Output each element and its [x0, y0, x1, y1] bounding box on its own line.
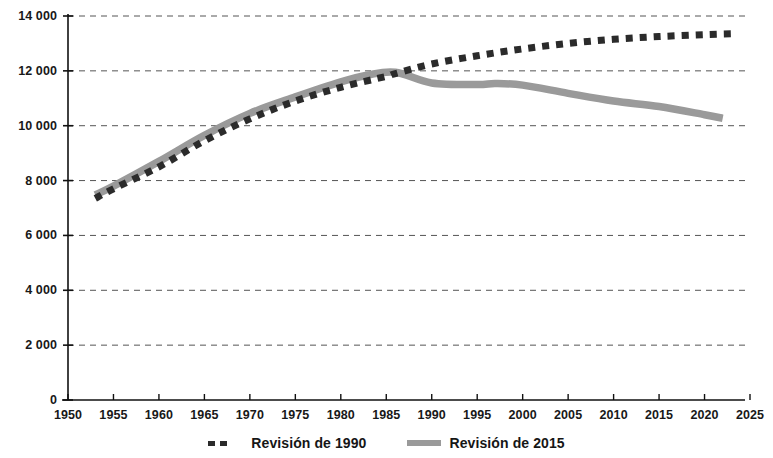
x-axis-label-2025: 2025: [736, 408, 764, 422]
x-axis-label-1975: 1975: [281, 408, 309, 422]
y-axis-label-10000: 10 000: [18, 119, 57, 133]
x-axis-label-2015: 2015: [645, 408, 673, 422]
y-axis-label-4000: 4 000: [25, 283, 57, 297]
x-axis-label-2005: 2005: [554, 408, 582, 422]
x-tick-marks-group: [68, 394, 750, 400]
x-axis-label-2010: 2010: [599, 408, 627, 422]
y-axis-label-14000: 14 000: [18, 9, 57, 23]
chart-legend: Revisión de 1990 Revisión de 2015: [0, 428, 773, 458]
legend-item-revision-1990[interactable]: Revisión de 1990: [208, 435, 366, 451]
series-line-revision-2015: [95, 72, 722, 195]
y-axis-label-2000: 2 000: [25, 338, 57, 352]
y-axis-label-6000: 6 000: [25, 228, 57, 242]
x-axis-label-2000: 2000: [509, 408, 537, 422]
dashed-line-marker-icon: [208, 440, 242, 447]
y-axis-label-8000: 8 000: [25, 174, 57, 188]
y-axis-label-0: 0: [50, 393, 57, 407]
x-axis-label-1960: 1960: [145, 408, 173, 422]
series-line-revision-1990: [95, 34, 732, 199]
legend-label-revision-2015: Revisión de 2015: [450, 435, 565, 451]
solid-line-marker-icon: [407, 439, 441, 447]
legend-label-revision-1990: Revisión de 1990: [251, 435, 366, 451]
gridlines-group: [68, 16, 750, 345]
x-axis-label-1970: 1970: [236, 408, 264, 422]
x-axis-label-1995: 1995: [463, 408, 491, 422]
x-axis-label-1990: 1990: [418, 408, 446, 422]
chart-plot-area: [0, 0, 773, 458]
x-axis-label-1955: 1955: [99, 408, 127, 422]
x-axis-label-1965: 1965: [190, 408, 218, 422]
y-axis-label-12000: 12 000: [18, 64, 57, 78]
chart-container: 02 0004 0006 0008 00010 00012 00014 000 …: [0, 0, 773, 458]
legend-item-revision-2015[interactable]: Revisión de 2015: [407, 435, 565, 451]
x-axis-label-2020: 2020: [690, 408, 718, 422]
x-axis-label-1980: 1980: [327, 408, 355, 422]
x-axis-label-1985: 1985: [372, 408, 400, 422]
data-series-group: [95, 34, 732, 199]
x-axis-label-1950: 1950: [54, 408, 82, 422]
